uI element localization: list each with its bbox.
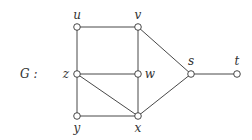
- node-label-s: s: [188, 54, 194, 68]
- node-w: [135, 71, 142, 78]
- node-label-w: w: [145, 67, 156, 81]
- node-label-v: v: [135, 8, 142, 22]
- node-t: [234, 71, 241, 78]
- node-label-x: x: [135, 121, 142, 135]
- node-label-u: u: [73, 8, 81, 22]
- nodes-group: [74, 24, 241, 120]
- graph-diagram: G : uvzwyxst: [0, 0, 252, 140]
- node-y: [74, 113, 81, 120]
- node-v: [135, 24, 142, 31]
- graph-name-label: G :: [20, 67, 37, 81]
- node-label-y: y: [73, 121, 81, 135]
- node-z: [74, 71, 81, 78]
- node-u: [74, 24, 81, 31]
- edge-z-x: [77, 74, 138, 116]
- node-s: [188, 71, 195, 78]
- node-x: [135, 113, 142, 120]
- node-label-z: z: [62, 67, 70, 81]
- node-label-t: t: [235, 54, 240, 68]
- edges-group: [77, 27, 237, 116]
